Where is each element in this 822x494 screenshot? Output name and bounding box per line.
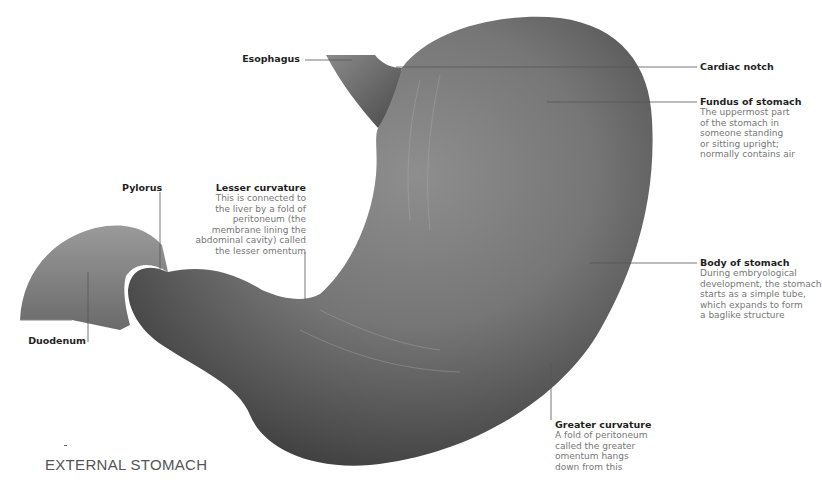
greater-curvature-desc-line: called the greater [555, 441, 685, 452]
greater-curvature-desc-line: omentum hangs [555, 451, 685, 462]
fundus-desc-line: normally contains air [700, 149, 822, 160]
body-desc-line: a baglike structure [700, 310, 822, 321]
lesser-curvature-desc-line: the liver by a fold of [180, 204, 306, 215]
lesser-curvature-desc-line: membrane lining the [180, 225, 306, 236]
greater-curvature-desc-line: A fold of peritoneum [555, 430, 685, 441]
fundus-title: Fundus of stomach [700, 96, 822, 107]
label-duodenum: Duodenum [0, 335, 86, 346]
label-esophagus: Esophagus [200, 53, 300, 64]
esophagus-title: Esophagus [200, 53, 300, 64]
stomach-illustration [0, 0, 822, 494]
figure-caption: EXTERNAL STOMACH [45, 456, 207, 473]
lesser-curvature-desc-line: peritoneum (the [180, 214, 306, 225]
fundus-desc-line: or sitting upright; [700, 139, 822, 150]
lesser-curvature-desc-line: abdominal cavity) called [180, 235, 306, 246]
lesser-curvature-title: Lesser curvature [180, 182, 306, 193]
label-greater-curvature: Greater curvature A fold of peritoneum c… [555, 419, 685, 472]
lesser-curvature-desc-line: This is connected to [180, 193, 306, 204]
cardiac-notch-title: Cardiac notch [700, 61, 820, 72]
body-desc-line: During embryological [700, 268, 822, 279]
lesser-curvature-desc-line: the lesser omentum [180, 246, 306, 257]
body-desc-line: which expands to form [700, 300, 822, 311]
duodenum-title: Duodenum [0, 335, 86, 346]
label-fundus: Fundus of stomach The uppermost part of … [700, 96, 822, 160]
fundus-desc-line: someone standing [700, 128, 822, 139]
label-body-of-stomach: Body of stomach During embryological dev… [700, 257, 822, 321]
label-cardiac-notch: Cardiac notch [700, 61, 820, 72]
decorative-dash [64, 445, 67, 446]
label-lesser-curvature: Lesser curvature This is connected to th… [180, 182, 306, 257]
greater-curvature-desc-line: down from this [555, 462, 685, 473]
fundus-desc-line: The uppermost part [700, 107, 822, 118]
stomach-diagram: Esophagus Cardiac notch Fundus of stomac… [0, 0, 822, 494]
body-title: Body of stomach [700, 257, 822, 268]
greater-curvature-title: Greater curvature [555, 419, 685, 430]
body-desc-line: starts as a simple tube, [700, 289, 822, 300]
fundus-desc-line: of the stomach in [700, 118, 822, 129]
body-desc-line: development, the stomach [700, 279, 822, 290]
